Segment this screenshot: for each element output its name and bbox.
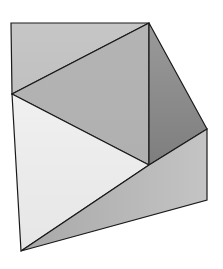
faces-group xyxy=(11,23,207,251)
geometric-figure xyxy=(0,0,223,269)
